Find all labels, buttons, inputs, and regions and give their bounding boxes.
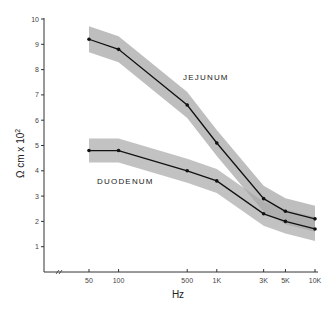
y-tick-label: 10 xyxy=(31,16,39,23)
x-tick-label: 100 xyxy=(113,277,125,284)
y-tick-label: 3 xyxy=(35,193,39,200)
chart: 12345678910501005001K3K5K10KHzΩ cm x 102… xyxy=(0,0,335,313)
data-point xyxy=(87,149,91,153)
data-point xyxy=(215,141,219,145)
data-point xyxy=(185,103,189,107)
data-point xyxy=(313,217,317,221)
data-point xyxy=(284,209,288,213)
data-point xyxy=(117,149,121,153)
data-point xyxy=(215,179,219,183)
data-point xyxy=(117,48,121,52)
y-tick-label: 5 xyxy=(35,142,39,149)
data-point xyxy=(284,220,288,224)
y-tick-label: 7 xyxy=(35,91,39,98)
x-tick-label: 500 xyxy=(181,277,193,284)
y-tick-label: 1 xyxy=(35,243,39,250)
series-label-jejunum: JEJUNUM xyxy=(183,73,229,82)
y-tick-label: 9 xyxy=(35,41,39,48)
x-tick-label: 3K xyxy=(259,277,268,284)
x-axis-label: Hz xyxy=(172,289,184,300)
band-jejunum xyxy=(89,26,315,232)
data-point xyxy=(262,197,266,201)
y-tick-label: 8 xyxy=(35,66,39,73)
x-tick-label: 50 xyxy=(85,277,93,284)
x-tick-label: 1K xyxy=(213,277,222,284)
series-label-duodenum: DUODENUM xyxy=(97,177,154,186)
y-axis-label: Ω cm x 102 xyxy=(14,129,26,178)
y-tick-label: 2 xyxy=(35,218,39,225)
band-duodenum xyxy=(89,139,315,241)
x-tick-label: 10K xyxy=(309,277,322,284)
data-point xyxy=(185,169,189,173)
data-point xyxy=(262,212,266,216)
data-point xyxy=(313,227,317,231)
data-point xyxy=(87,37,91,41)
y-tick-label: 4 xyxy=(35,167,39,174)
y-tick-label: 6 xyxy=(35,117,39,124)
x-tick-label: 5K xyxy=(281,277,290,284)
